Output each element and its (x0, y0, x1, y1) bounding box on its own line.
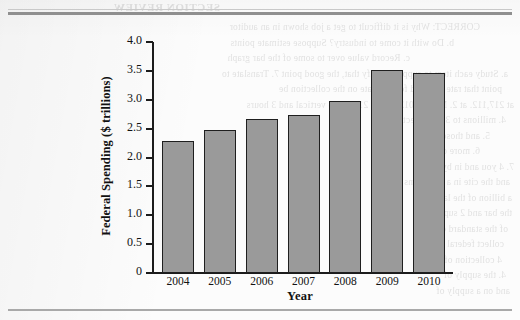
y-tick: 1.0 (146, 214, 153, 216)
x-tick-label: 2005 (199, 275, 241, 287)
bar-chart-figure: Federal Spending ($ trillions) 00.51.01.… (0, 18, 520, 303)
scanned-page: SECTION REVIEWCORRECT: Why is it difficu… (0, 0, 520, 320)
page-rule-bottom (8, 309, 512, 311)
bar (371, 70, 403, 273)
bar-cell (283, 42, 325, 273)
y-tick-label: 0.5 (127, 235, 142, 250)
y-tick-label: 3.0 (127, 91, 142, 106)
bar-cell (324, 42, 366, 273)
y-tick-label: 3.5 (127, 62, 142, 77)
x-tick-label: 2006 (241, 275, 283, 287)
bar-series (153, 42, 453, 273)
page-rule-top (8, 12, 512, 15)
bar-cell (157, 42, 199, 273)
x-tick-label: 2010 (408, 275, 450, 287)
x-tick-label: 2007 (283, 275, 325, 287)
y-tick-label: 1.5 (127, 177, 142, 192)
x-tick-label: 2008 (324, 275, 366, 287)
x-tick-label: 2009 (366, 275, 408, 287)
y-axis-title: Federal Spending ($ trillions) (99, 56, 115, 256)
y-tick: 0.5 (146, 243, 153, 245)
bar-cell (199, 42, 241, 273)
y-tick-label: 4.0 (127, 33, 142, 48)
y-tick-label: 2.5 (127, 120, 142, 135)
y-tick: 2.0 (146, 157, 153, 159)
bar (246, 119, 278, 273)
y-tick: 0 (146, 272, 153, 274)
y-tick-label: 1.0 (127, 206, 142, 221)
plot-area: 00.51.01.52.02.53.03.54.0 (153, 42, 453, 273)
y-tick: 3.0 (146, 99, 153, 101)
x-tick-label: 2004 (157, 275, 199, 287)
y-tick: 2.5 (146, 128, 153, 130)
y-tick: 3.5 (146, 70, 153, 72)
bar (204, 130, 236, 273)
bar (413, 73, 445, 273)
page-rule-hairline (8, 9, 512, 10)
x-axis-title: Year (140, 289, 460, 304)
bar-cell (408, 42, 450, 273)
y-tick-label: 0 (136, 264, 142, 279)
y-tick: 1.5 (146, 185, 153, 187)
y-tick: 4.0 (146, 41, 153, 43)
bar (288, 115, 320, 273)
bar-cell (366, 42, 408, 273)
y-tick-label: 2.0 (127, 149, 142, 164)
bar (329, 101, 361, 273)
bar-cell (241, 42, 283, 273)
bar (162, 141, 194, 273)
x-axis-ticks: 2004200520062007200820092010 (153, 275, 453, 287)
